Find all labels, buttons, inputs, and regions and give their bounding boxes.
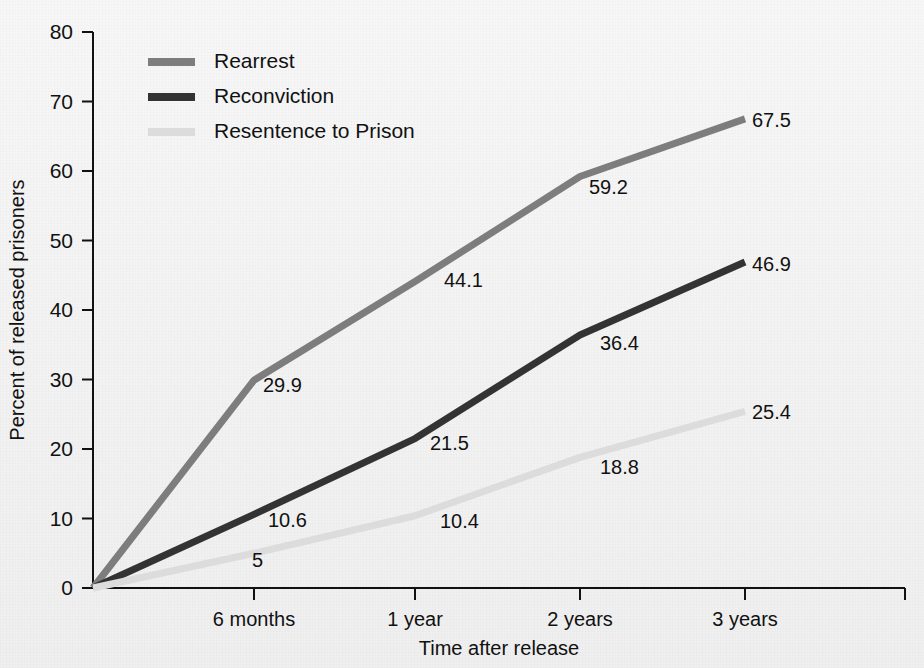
data-point-label: 5 [252,549,263,571]
data-point-labels: 29.944.159.267.510.621.536.446.9510.418.… [252,109,791,571]
data-point-label: 36.4 [600,332,639,354]
x-tick-label: 1 year [387,608,443,630]
data-point-label: 29.9 [263,374,302,396]
data-point-label: 46.9 [752,253,791,275]
data-point-label: 25.4 [752,401,791,423]
data-point-label: 44.1 [444,269,483,291]
x-tick-label: 3 years [712,608,778,630]
x-axis: 6 months1 year2 years3 years [93,588,905,630]
data-series-group [93,119,745,588]
y-tick-label: 80 [50,20,73,43]
y-tick-label: 70 [50,90,73,113]
y-tick-label: 50 [50,229,73,252]
x-tick-label: 2 years [547,608,613,630]
data-point-label: 18.8 [600,456,639,478]
y-axis: 01020304050607080 [50,20,93,599]
data-point-label: 10.6 [268,509,307,531]
y-tick-label: 20 [50,437,73,460]
data-point-label: 67.5 [752,109,791,131]
legend-label: Resentence to Prison [214,119,415,142]
data-point-label: 10.4 [440,510,479,532]
data-point-label: 21.5 [430,432,469,454]
y-axis-title: Percent of released prisoners [6,179,28,440]
x-tick-label: 6 months [213,608,295,630]
y-tick-label: 40 [50,298,73,321]
y-tick-label: 10 [50,507,73,530]
y-tick-label: 0 [61,576,73,599]
series-line-reconviction [93,262,745,588]
data-point-label: 59.2 [589,176,628,198]
y-tick-label: 30 [50,368,73,391]
legend-label: Rearrest [214,49,295,72]
line-chart: 01020304050607080 6 months1 year2 years3… [0,0,924,668]
x-axis-title: Time after release [419,637,579,659]
chart-container: 01020304050607080 6 months1 year2 years3… [0,0,924,668]
chart-legend: RearrestReconvictionResentence to Prison [148,49,415,142]
y-tick-label: 60 [50,159,73,182]
legend-label: Reconviction [214,84,334,107]
